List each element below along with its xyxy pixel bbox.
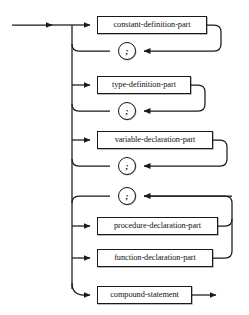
- node-function-declaration-part[interactable]: function-declaration-part: [97, 249, 213, 267]
- loop-procedure-to-right-rail: [218, 219, 232, 226]
- node-label: function-declaration-part: [114, 254, 196, 262]
- node-label: type-definition-part: [112, 81, 176, 89]
- node-compound-statement[interactable]: compound-statement: [97, 286, 192, 304]
- node-procedure-declaration-part[interactable]: procedure-declaration-part: [97, 217, 218, 235]
- terminal-semicolon-2[interactable]: ;: [118, 102, 136, 120]
- node-variable-declaration-part[interactable]: variable-declaration-part: [97, 131, 213, 149]
- loop-semicolon-4-to-rail: [72, 196, 110, 203]
- terminal-label: ;: [126, 191, 129, 201]
- branch-compound-statement: [72, 283, 90, 295]
- terminal-label: ;: [126, 46, 129, 56]
- node-label: procedure-declaration-part: [114, 222, 201, 230]
- loop-semicolon-to-rail-1: [72, 44, 110, 51]
- loop-semicolon-to-rail-3: [72, 159, 110, 166]
- node-label: compound-statement: [110, 291, 179, 299]
- railroad-diagram: constant-definition-part ; type-definiti…: [0, 0, 249, 315]
- terminal-label: ;: [126, 106, 129, 116]
- terminal-semicolon-1[interactable]: ;: [118, 42, 136, 60]
- node-label: variable-declaration-part: [115, 136, 196, 144]
- terminal-semicolon-4[interactable]: ;: [118, 187, 136, 205]
- node-label: constant-definition-part: [113, 21, 190, 29]
- loop-semicolon-to-rail-2: [72, 104, 110, 111]
- terminal-label: ;: [126, 161, 129, 171]
- node-constant-definition-part[interactable]: constant-definition-part: [97, 16, 207, 34]
- node-type-definition-part[interactable]: type-definition-part: [97, 76, 191, 94]
- terminal-semicolon-3[interactable]: ;: [118, 157, 136, 175]
